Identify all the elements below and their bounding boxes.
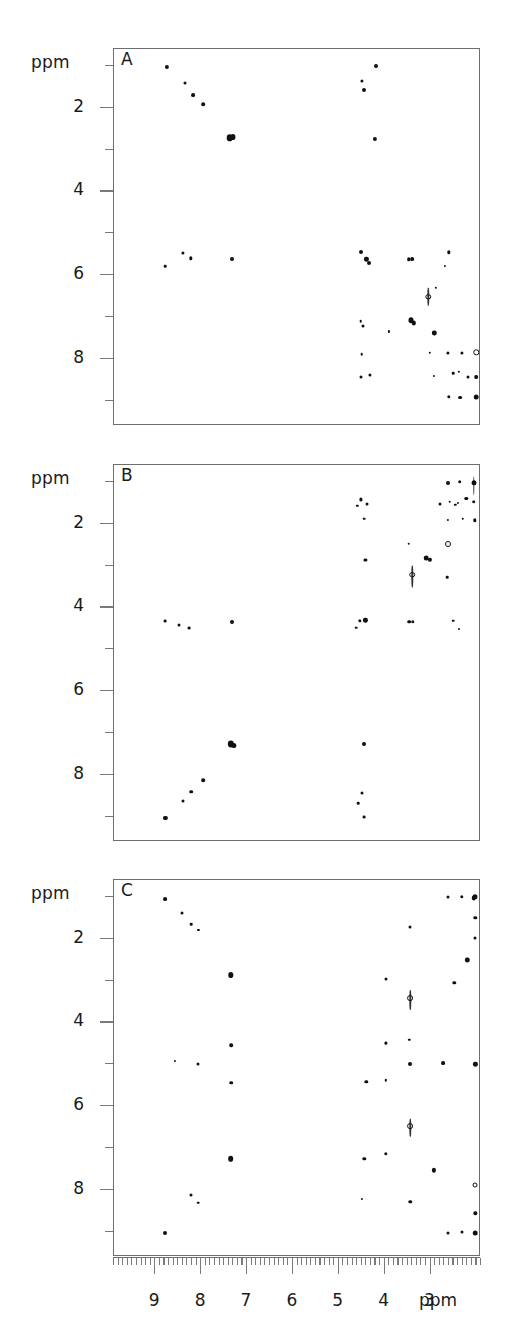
panel-a-y-tick-label: 8 (58, 347, 84, 367)
nmr-peak (408, 1062, 412, 1066)
x-minor-tick (466, 1258, 467, 1265)
panel-c-y-major-tick (100, 938, 113, 939)
panel-c-plot[interactable]: C (113, 879, 480, 1256)
panel-c-y-minor-tick (105, 1063, 113, 1064)
nmr-peak (457, 502, 459, 504)
nmr-peak (232, 743, 237, 749)
x-minor-tick (365, 1258, 366, 1265)
panel-c-y-unit-label: ppm (31, 883, 70, 903)
x-minor-tick (283, 1258, 284, 1265)
x-minor-tick (420, 1258, 421, 1265)
panel-a-y-unit-label: ppm (31, 52, 70, 72)
nmr-peak (432, 1168, 436, 1173)
nmr-peak (359, 250, 363, 254)
x-minor-tick (374, 1258, 375, 1265)
nmr-peak (165, 64, 169, 68)
nmr-peak (445, 541, 451, 547)
x-major-tick (246, 1258, 247, 1274)
nmr-peak (452, 372, 455, 375)
nmr-peak (190, 1194, 193, 1197)
nmr-peak (197, 929, 199, 931)
x-minor-tick (352, 1258, 353, 1265)
panel-b-y-minor-tick (105, 816, 113, 817)
panel-a-y-tick-label: 2 (58, 96, 84, 116)
nmr-peak (384, 977, 387, 980)
nmr-peak (359, 375, 362, 378)
x-minor-tick (306, 1258, 307, 1265)
panel-b-y-minor-tick (105, 732, 113, 733)
nmr-peak (453, 981, 456, 984)
panel-c-y-major-tick (100, 1021, 113, 1022)
x-minor-tick (356, 1258, 357, 1265)
x-minor-tick (324, 1258, 325, 1265)
panel-c-y-major-tick (100, 1189, 113, 1190)
nmr-peak (188, 627, 191, 630)
nmr-peak (410, 257, 414, 261)
nmr-peak (467, 376, 470, 379)
x-minor-tick (342, 1258, 343, 1265)
nmr-peak (465, 958, 469, 963)
panel-a-y-tick-label: 6 (58, 263, 84, 283)
x-minor-tick (310, 1258, 311, 1265)
panel-c-y-minor-tick (105, 980, 113, 981)
x-major-tick (154, 1258, 155, 1274)
x-minor-tick (319, 1258, 320, 1265)
nmr-peak (364, 558, 367, 561)
x-major-tick (384, 1258, 385, 1274)
x-minor-tick (301, 1258, 302, 1265)
nmr-peak (361, 325, 364, 328)
nmr-peak (460, 352, 463, 355)
nmr-peak (164, 265, 167, 268)
panel-c-y-tick-label: 8 (58, 1178, 84, 1198)
panel-b-y-minor-tick (105, 565, 113, 566)
nmr-peak (363, 1157, 366, 1160)
x-minor-tick (219, 1258, 220, 1265)
nmr-peak (360, 353, 363, 356)
x-minor-tick (228, 1258, 229, 1265)
nmr-peak (441, 1062, 445, 1066)
nmr-peak (471, 896, 475, 901)
panel-c-label: C (121, 882, 133, 899)
nmr-peak (367, 261, 371, 265)
panel-b-plot[interactable]: B (113, 464, 480, 841)
x-minor-tick (407, 1258, 408, 1265)
panel-a-plot[interactable]: A (113, 48, 480, 425)
panel-a-y-minor-tick (105, 65, 113, 66)
x-minor-tick (196, 1258, 197, 1265)
panel-c-y-minor-tick (105, 1147, 113, 1148)
nmr-peak (360, 791, 363, 794)
nmr-peak (435, 287, 437, 289)
x-minor-tick (457, 1258, 458, 1265)
nmr-peak (374, 64, 378, 68)
nmr-peak (178, 624, 181, 627)
nmr-peak (452, 620, 455, 623)
nmr-peak (357, 802, 360, 805)
nmr-peak (163, 897, 167, 901)
x-minor-tick (141, 1258, 142, 1265)
x-minor-tick (241, 1258, 242, 1265)
x-minor-tick (370, 1258, 371, 1265)
nmr-peak (173, 1060, 175, 1062)
nmr-peak (184, 82, 187, 85)
nmr-peak (428, 557, 432, 562)
x-minor-tick (223, 1258, 224, 1265)
panel-c-y-tick-label: 2 (58, 927, 84, 947)
nmr-peak (446, 895, 449, 898)
nmr-peak (163, 816, 167, 820)
nmr-peak (181, 251, 184, 254)
nmr-peak (454, 504, 456, 506)
nmr-peak (362, 88, 366, 92)
nmr-peak (408, 1039, 410, 1041)
x-minor-tick (411, 1258, 412, 1265)
x-tick-label: 8 (190, 1290, 210, 1310)
nmr-peak (360, 79, 363, 82)
x-minor-tick (136, 1258, 137, 1265)
nmr-peak (460, 895, 463, 898)
panel-a-y-minor-tick (105, 400, 113, 401)
panel-b-y-major-tick (100, 774, 113, 775)
x-minor-tick (274, 1258, 275, 1265)
x-minor-tick (145, 1258, 146, 1265)
nmr-peak (163, 1231, 167, 1235)
x-minor-tick (347, 1258, 348, 1265)
x-minor-tick (186, 1258, 187, 1265)
